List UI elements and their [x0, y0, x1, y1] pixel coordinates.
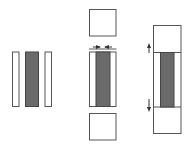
arrow-inward-left-icon — [93, 45, 101, 49]
arrow-down-icon — [147, 99, 151, 112]
diagram-canvas — [0, 0, 190, 148]
arrow-up-icon — [147, 43, 151, 53]
thin-bar-left — [13, 52, 20, 107]
thin-bar-right — [45, 52, 52, 107]
bottom-square — [90, 114, 117, 141]
column-dark-bar — [161, 53, 175, 108]
top-square — [90, 10, 117, 37]
arrow-inward-right-icon — [104, 45, 112, 49]
panel-left — [13, 52, 52, 107]
panel-middle — [89, 10, 117, 141]
dark-bar — [26, 52, 39, 107]
panel-right — [147, 26, 181, 134]
combined-bar-dark — [96, 52, 110, 107]
